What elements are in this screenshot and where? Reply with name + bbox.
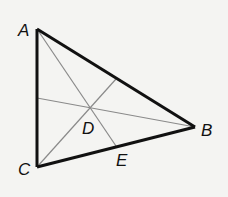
triangle-diagram: A B C D E	[0, 0, 228, 197]
cevian-c-ab	[37, 79, 116, 167]
label-b: B	[201, 121, 212, 140]
label-c: C	[18, 160, 31, 179]
label-e: E	[116, 151, 128, 170]
cevian-a-e	[37, 29, 116, 146]
label-d: D	[82, 119, 94, 138]
label-a: A	[17, 21, 29, 40]
